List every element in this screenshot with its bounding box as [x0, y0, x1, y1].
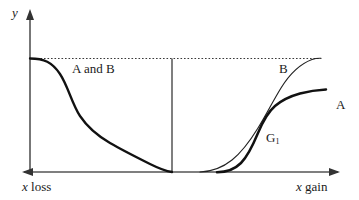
- x-axis-left-arrowhead-icon: [22, 168, 33, 176]
- x-gain-word: gain: [302, 179, 328, 194]
- gain-domain-curves-group: [200, 58, 326, 172]
- x-axis-right-arrowhead-icon: [329, 168, 340, 176]
- crossing-point-label-base: G: [266, 130, 275, 145]
- x-loss-word: loss: [28, 179, 51, 194]
- crossing-point-label: G1: [266, 131, 279, 144]
- x-axis-gain-label: x gain: [296, 180, 327, 193]
- value-function-figure: y x loss x gain A and B B A G1: [0, 0, 359, 200]
- y-axis-arrowhead-icon: [26, 9, 34, 20]
- curve-b-gain: [200, 58, 321, 172]
- curve-a-and-b-label: A and B: [72, 62, 115, 75]
- y-axis-label: y: [12, 6, 18, 19]
- crossing-point-label-subscript: 1: [275, 137, 279, 146]
- curve-b-label: B: [279, 62, 288, 75]
- x-axis-loss-label: x loss: [22, 180, 51, 193]
- figure-canvas: [0, 0, 359, 200]
- curve-a-label: A: [336, 98, 345, 111]
